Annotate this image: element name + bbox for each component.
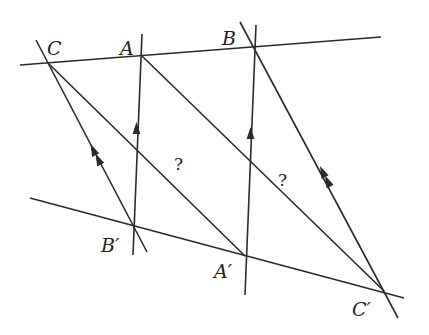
double-arrow-icon (320, 166, 329, 179)
line-b-aprime (245, 25, 256, 295)
top-line (20, 37, 381, 65)
double-arrow-icon (91, 144, 100, 157)
question-mark-2: ? (278, 170, 287, 190)
label-b-prime: B′ (100, 234, 120, 256)
geometry-diagram: C A B B′ A′ C′ ? ? (0, 0, 429, 335)
label-c-prime: C′ (352, 298, 372, 320)
line-a-bprime (133, 34, 142, 255)
label-a: A (118, 37, 134, 59)
single-arrow-icon (247, 127, 255, 139)
line-c-aprime (48, 63, 245, 256)
bottom-line (30, 198, 404, 298)
label-c: C (47, 37, 62, 59)
double-arrow-icon (96, 154, 105, 167)
double-arrow-icon (325, 176, 334, 189)
question-mark-1: ? (174, 154, 183, 174)
single-arrow-icon (133, 122, 141, 134)
label-b: B (221, 27, 236, 49)
label-a-prime: A′ (212, 260, 233, 282)
line-b-cprime (240, 22, 398, 318)
